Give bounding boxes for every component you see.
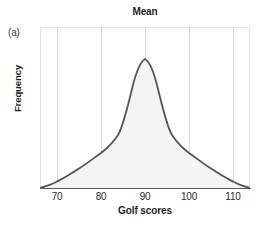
x-tick-label-100: 100	[169, 191, 209, 202]
distribution-curve	[40, 27, 250, 188]
figure-container: (a) Mean Frequency 70 80 90 100 110 Golf…	[0, 0, 264, 227]
x-tick-label-70: 70	[37, 191, 77, 202]
distribution-fill	[40, 59, 250, 188]
x-tick-label-80: 80	[81, 191, 121, 202]
x-axis-label: Golf scores	[40, 205, 250, 216]
chart-title: Mean	[40, 6, 250, 17]
y-axis-label: Frequency	[12, 44, 23, 134]
plot-area	[40, 27, 250, 188]
x-tick-label-90: 90	[125, 191, 165, 202]
x-tick-label-110: 110	[213, 191, 253, 202]
x-axis-line	[40, 188, 251, 189]
panel-label: (a)	[8, 27, 20, 38]
